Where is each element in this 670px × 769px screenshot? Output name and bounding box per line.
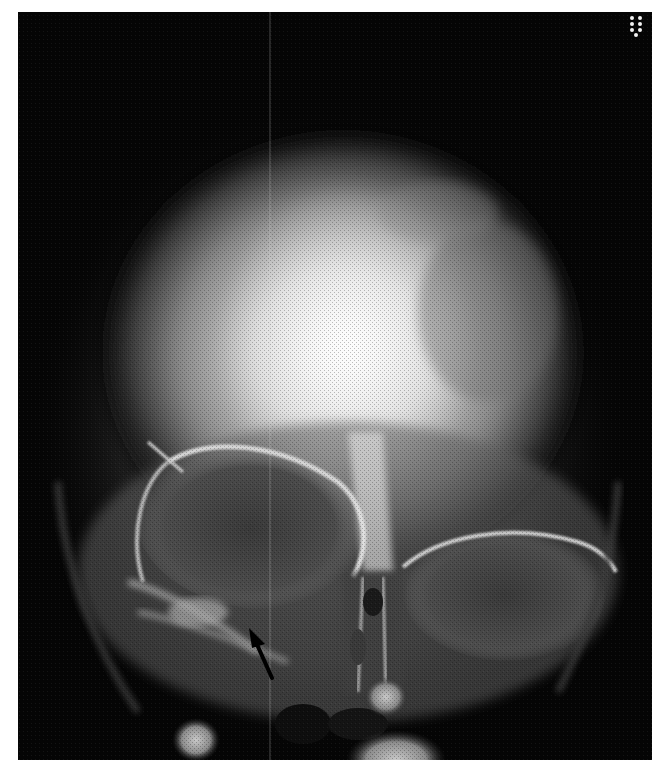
xray-image (18, 12, 652, 760)
skull-radiograph (18, 12, 652, 760)
corner-marker-icon (628, 15, 644, 37)
